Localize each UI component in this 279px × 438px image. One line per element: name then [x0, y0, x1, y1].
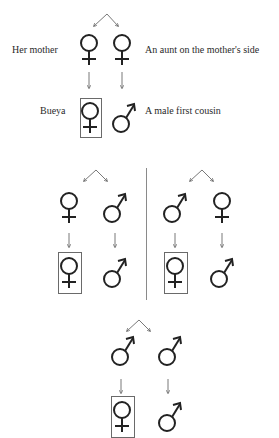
label-male-cousin: A male first cousin — [145, 105, 221, 116]
male-symbol-icon — [158, 399, 182, 433]
label-her-mother: Her mother — [12, 44, 58, 55]
female-symbol-icon — [110, 399, 134, 433]
section-divider — [146, 168, 147, 300]
label-aunt: An aunt on the mother's side — [145, 44, 259, 55]
female-symbol-icon — [210, 190, 234, 224]
male-symbol-icon — [210, 255, 234, 289]
male-symbol-icon — [103, 255, 127, 289]
male-symbol-icon — [158, 333, 182, 367]
male-symbol-icon — [163, 190, 187, 224]
male-symbol-icon — [103, 190, 127, 224]
female-symbol-icon — [57, 190, 81, 224]
female-symbol-icon — [78, 100, 102, 134]
female-symbol-icon — [163, 255, 187, 289]
female-symbol-icon — [77, 32, 101, 66]
male-symbol-icon — [112, 100, 136, 134]
male-symbol-icon — [111, 333, 135, 367]
female-symbol-icon — [110, 32, 134, 66]
label-bueya: Bueya — [40, 105, 66, 116]
female-symbol-icon — [57, 255, 81, 289]
